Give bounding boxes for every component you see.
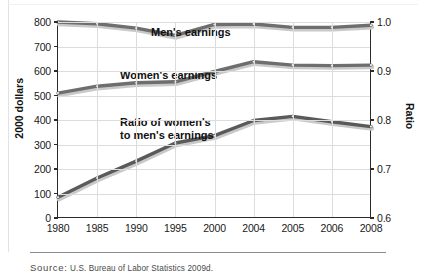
gridline-vertical — [136, 22, 137, 217]
gridline-vertical — [332, 22, 333, 217]
chart-page: 2000 dollars Ratio Men's earnings Women'… — [0, 0, 425, 277]
y-axis-tick-left — [54, 119, 58, 120]
y-axis-label-left: 600 — [34, 65, 51, 77]
plot-area: Men's earnings Women's earnings Ratio of… — [57, 22, 371, 218]
x-axis-label: 1990 — [125, 222, 148, 234]
annotation-mens-earnings: Men's earnings — [151, 26, 231, 39]
x-axis-label: 1995 — [164, 222, 187, 234]
y-axis-label-right: 0.9 — [377, 65, 391, 77]
y-axis-tick-right — [370, 217, 374, 218]
y-axis-label-right: 0.7 — [377, 163, 391, 175]
annotation-ratio-line2: to men's earnings — [120, 129, 214, 141]
y-axis-label-right: 0.8 — [377, 114, 391, 126]
x-axis-label: 2005 — [281, 222, 304, 234]
series-point-marker — [370, 126, 372, 128]
x-axis-label: 2008 — [360, 222, 383, 234]
y-axis-tick-left — [54, 21, 58, 22]
x-axis-label: 1980 — [47, 222, 70, 234]
source-label: Source: — [30, 262, 68, 273]
x-axis-label: 2004 — [242, 222, 265, 234]
source-divider — [30, 252, 386, 253]
y-axis-tick-left — [54, 168, 58, 169]
y-axis-tick-left — [54, 217, 58, 218]
y-axis-label-left: 400 — [34, 114, 51, 126]
y-axis-tick-left — [54, 95, 58, 96]
series-point-marker — [370, 24, 372, 26]
source-note: Source: U.S. Bureau of Labor Statistics … — [30, 262, 213, 273]
y-axis-label-left: 300 — [34, 139, 51, 151]
y-axis-tick-left — [54, 144, 58, 145]
y-axis-label-left: 700 — [34, 41, 51, 53]
y-axis-tick-left — [54, 46, 58, 47]
series-point-marker — [370, 64, 372, 66]
line-chart: 2000 dollars Ratio Men's earnings Women'… — [0, 0, 425, 246]
annotation-ratio-line1: Ratio of women's — [120, 116, 211, 128]
x-axis-label: 2006 — [321, 222, 344, 234]
y-axis-tick-left — [54, 70, 58, 71]
series-point-marker — [57, 92, 59, 94]
y-axis-label-left: 200 — [34, 163, 51, 175]
y-axis-tick-right — [370, 168, 374, 169]
y-axis-tick-right — [370, 70, 374, 71]
y-axis-label-left: 500 — [34, 90, 51, 102]
source-text: U.S. Bureau of Labor Statistics 2009d. — [70, 264, 213, 273]
y-axis-label-left: 800 — [34, 16, 51, 28]
x-axis-label: 2000 — [203, 222, 226, 234]
y-axis-tick-right — [370, 119, 374, 120]
y-axis-tick-left — [54, 193, 58, 194]
gridline-vertical — [97, 22, 98, 217]
gridline-vertical — [175, 22, 176, 217]
gridline-vertical — [254, 22, 255, 217]
gridline-vertical — [293, 22, 294, 217]
y-axis-tick-right — [370, 21, 374, 22]
y-axis-label-right: 1.0 — [377, 16, 391, 28]
gridline-vertical — [215, 22, 216, 217]
y-axis-title-left: 2000 dollars — [13, 78, 29, 139]
y-axis-title-right: Ratio — [404, 103, 416, 129]
x-axis-label: 1985 — [86, 222, 109, 234]
y-axis-label-left: 100 — [34, 188, 51, 200]
series-point-marker — [57, 196, 59, 198]
